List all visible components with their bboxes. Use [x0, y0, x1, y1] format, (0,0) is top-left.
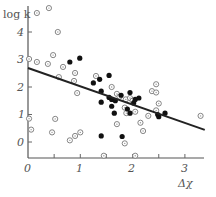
filled-circle-point	[97, 77, 102, 82]
open-circle-center	[51, 132, 52, 133]
filled-circle-point	[136, 95, 141, 100]
y-axis-label: log k	[3, 9, 30, 20]
open-circle-center	[116, 123, 117, 124]
open-circle-center	[30, 129, 31, 130]
open-circle-center	[36, 12, 37, 13]
open-circle-center	[47, 63, 48, 64]
open-circle-center	[135, 155, 136, 156]
open-circle-center	[124, 143, 125, 144]
filled-circle-point	[127, 90, 132, 95]
open-circle-center	[111, 86, 112, 87]
filled-circle-point	[99, 133, 104, 138]
open-circle-center	[48, 7, 49, 8]
open-circle-center	[28, 58, 29, 59]
x-tick-label-0: 0	[24, 163, 31, 174]
open-circle-center	[158, 103, 159, 104]
filled-circle-point	[99, 100, 104, 105]
y-tick-label-3: 3	[17, 54, 24, 65]
open-circle-center	[58, 76, 59, 77]
open-circle-center	[62, 66, 63, 67]
filled-circle-point	[106, 73, 111, 78]
open-circle-center	[57, 31, 58, 32]
y-tick-label-1: 1	[18, 109, 25, 120]
filled-circle-point	[77, 56, 82, 61]
open-circle-center	[74, 135, 75, 136]
open-circle-center	[129, 97, 130, 98]
open-circle-center	[95, 75, 96, 76]
open-circle-center	[76, 92, 77, 93]
open-circle-center	[140, 122, 141, 123]
filled-circle-point	[118, 93, 123, 98]
open-circle-center	[126, 112, 127, 113]
open-circle-center	[74, 72, 75, 73]
filled-circle-point	[112, 111, 117, 116]
open-circle-center	[54, 118, 55, 119]
axes	[28, 6, 204, 158]
open-circle-center	[135, 111, 136, 112]
data-points	[26, 5, 203, 158]
open-circle-center	[28, 118, 29, 119]
y-tick-label-4: 4	[17, 27, 24, 38]
open-circle-center	[103, 155, 104, 156]
x-axis-label: Δχ	[178, 178, 193, 189]
open-circle-center	[36, 61, 37, 62]
open-circle-center	[125, 99, 126, 100]
filled-circle-point	[120, 134, 125, 139]
open-circle-center	[155, 84, 156, 85]
open-circle-center	[155, 92, 156, 93]
open-circle-center	[151, 90, 152, 91]
open-circle-center	[142, 130, 143, 131]
filled-circle-point	[91, 80, 96, 85]
open-circle-center	[52, 54, 53, 55]
filled-circle-point	[67, 59, 72, 64]
y-tick-label-2: 2	[17, 82, 24, 93]
filled-circle-point	[109, 104, 114, 109]
x-tick-label-2: 2	[128, 163, 135, 174]
open-circle-center	[69, 140, 70, 141]
x-tick-label-1: 1	[76, 163, 83, 174]
open-circle-center	[80, 132, 81, 133]
filled-circle-point	[127, 111, 132, 116]
open-circle-center	[148, 115, 149, 116]
y-tick-label-0: 0	[17, 137, 24, 148]
open-circle-center	[116, 93, 117, 94]
open-circle-center	[200, 115, 201, 116]
open-circle-center	[155, 110, 156, 111]
x-tick-label-3: 3	[181, 163, 188, 174]
open-circle-center	[73, 80, 74, 81]
